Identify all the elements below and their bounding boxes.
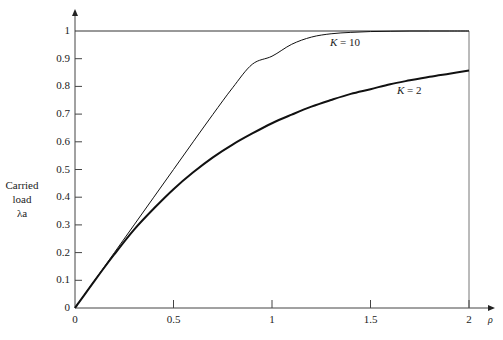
y-label-line3: λa	[2, 206, 42, 220]
y-tick-label: 0.6	[40, 135, 70, 148]
y-label-line1: Carried	[2, 178, 42, 192]
x-tick-label: 1.5	[359, 313, 383, 326]
series-line-k2	[75, 71, 469, 308]
x-tick-label: 0.5	[162, 313, 186, 326]
annotation-k2: K = 2	[397, 84, 422, 96]
series-line-k10	[75, 31, 469, 308]
y-tick-label: 1	[40, 24, 70, 37]
y-tick-label: 0.2	[40, 246, 70, 259]
y-tick-label: 0.4	[40, 190, 70, 203]
x-axis-arrow-icon	[488, 305, 495, 311]
y-tick-label: 0.7	[40, 107, 70, 120]
y-tick-label: 0.3	[40, 218, 70, 231]
y-axis-arrow-icon	[72, 9, 78, 16]
annotation-k10: K = 10	[330, 36, 360, 48]
y-axis-label: Carried load λa	[2, 178, 42, 220]
y-tick-label: 0.5	[40, 163, 70, 176]
x-tick-label: 2	[457, 313, 481, 326]
y-label-line2: load	[2, 192, 42, 206]
y-tick-label: 0.8	[40, 79, 70, 92]
x-tick-label: 1	[260, 313, 284, 326]
y-tick-label: 0	[40, 301, 70, 314]
y-tick-label: 0.9	[40, 52, 70, 65]
x-tick-label: 0	[63, 313, 87, 326]
y-tick-label: 0.1	[40, 273, 70, 286]
chart-canvas	[0, 0, 503, 340]
x-axis-label: ρ	[488, 313, 493, 326]
